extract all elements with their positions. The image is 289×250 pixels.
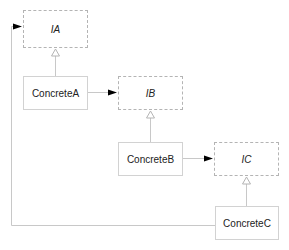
dependency-arrowhead-icon [13,24,22,30]
class-concreteb[interactable]: ConcreteB [118,142,183,176]
interface-ib[interactable]: IB [118,76,183,110]
class-concretea[interactable]: ConcreteA [23,76,88,110]
node-label: ConcreteA [32,88,79,99]
interface-ia[interactable]: IA [23,10,88,48]
class-concretec[interactable]: ConcreteC [215,206,279,240]
node-label: ConcreteC [223,218,271,229]
dependency-line-c-ia [12,27,216,226]
node-label: IA [51,24,60,35]
realization-arrowhead-icon [147,111,155,118]
interface-ic[interactable]: IC [214,142,279,176]
realization-arrowhead-icon [243,177,251,184]
node-label: IC [242,154,252,165]
dependency-arrowhead-icon [108,90,117,96]
realization-arrowhead-icon [52,49,60,56]
node-label: IB [146,88,155,99]
node-label: ConcreteB [127,154,174,165]
dependency-arrowhead-icon [204,156,213,162]
